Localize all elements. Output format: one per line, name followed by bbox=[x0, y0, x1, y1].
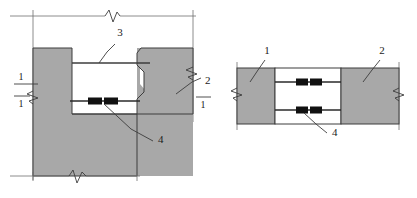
connector-lower-segment-a bbox=[296, 107, 308, 114]
left-top-dimension-line bbox=[10, 10, 196, 22]
right-member-2-body bbox=[341, 68, 399, 124]
left-callout-2-label: 2 bbox=[205, 74, 211, 86]
section-mark-lower-left: 1 bbox=[14, 96, 30, 109]
right-view-group: 1 2 4 bbox=[231, 44, 404, 138]
technical-drawing: 3 2 4 1 1 1 bbox=[0, 0, 417, 198]
section-mark-lower-left-label: 1 bbox=[19, 98, 24, 109]
connector-segment-b bbox=[104, 98, 118, 105]
connector-upper-segment-b bbox=[310, 79, 322, 86]
right-callout-2-label: 2 bbox=[379, 44, 385, 56]
left-callout-4-label: 4 bbox=[158, 133, 164, 145]
right-callout-1-label: 1 bbox=[264, 44, 270, 56]
right-member-1-body bbox=[237, 68, 275, 124]
section-mark-lower-right: 1 bbox=[196, 97, 211, 110]
left-member-2-body bbox=[137, 48, 193, 114]
connector-segment-a bbox=[88, 98, 102, 105]
left-connector-4 bbox=[70, 98, 140, 105]
cad-canvas: 3 2 4 1 1 1 bbox=[0, 0, 417, 198]
connector-upper-segment-a bbox=[296, 79, 308, 86]
left-callout-3-label: 3 bbox=[117, 26, 123, 38]
connector-lower-segment-b bbox=[310, 107, 322, 114]
right-callout-4-label: 4 bbox=[332, 126, 338, 138]
break-symbol-top bbox=[105, 10, 120, 22]
left-view-group: 3 2 4 1 1 1 bbox=[10, 10, 211, 183]
section-mark-lower-right-label: 1 bbox=[201, 99, 206, 110]
right-center-gap bbox=[275, 68, 341, 124]
section-mark-upper-left-label: 1 bbox=[19, 71, 24, 82]
leader-3 bbox=[99, 44, 115, 63]
left-member-1-body bbox=[33, 48, 137, 176]
